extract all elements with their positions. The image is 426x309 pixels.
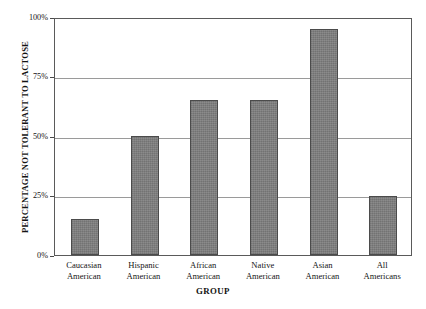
- x-axis-category-label-line: American: [54, 271, 114, 282]
- bar-chart: PERCENTAGE NOT TOLERANT TO LACTOSE 0%25%…: [0, 0, 426, 309]
- x-axis-category-label-line: Americans: [352, 271, 412, 282]
- x-axis-category-label-line: Hispanic: [114, 260, 174, 271]
- bar: [131, 136, 159, 255]
- bar: [250, 100, 278, 255]
- x-axis-category-label-line: Native: [233, 260, 293, 271]
- x-axis-category-label: AsianAmerican: [293, 260, 353, 281]
- y-axis-tick-label: 50%: [2, 133, 48, 141]
- x-axis-category-label: AfricanAmerican: [173, 260, 233, 281]
- gridline: [55, 197, 411, 198]
- y-axis-tick-label: 25%: [2, 192, 48, 200]
- bar: [190, 100, 218, 255]
- x-axis-category-label-line: African: [173, 260, 233, 271]
- x-axis-category-label: AllAmericans: [352, 260, 412, 281]
- x-axis-category-label: CaucasianAmerican: [54, 260, 114, 281]
- x-axis-category-label-line: All: [352, 260, 412, 271]
- y-axis-tick-label: 75%: [2, 73, 48, 81]
- plot-area: [54, 18, 412, 256]
- x-axis-category-label-line: American: [293, 271, 353, 282]
- x-axis-category-label-line: American: [173, 271, 233, 282]
- gridline: [55, 78, 411, 79]
- x-axis-category-label-line: Caucasian: [54, 260, 114, 271]
- bar: [71, 219, 99, 255]
- gridline: [55, 138, 411, 139]
- y-axis-tick-label: 100%: [2, 14, 48, 22]
- bar: [369, 196, 397, 256]
- x-axis-category-label-line: American: [233, 271, 293, 282]
- bar: [310, 29, 338, 255]
- x-axis-title: GROUP: [0, 286, 426, 296]
- x-axis-category-label: NativeAmerican: [233, 260, 293, 281]
- y-axis-tick-label: 0%: [2, 252, 48, 260]
- x-axis-category-label-line: Asian: [293, 260, 353, 271]
- x-axis-category-label: HispanicAmerican: [114, 260, 174, 281]
- x-axis-category-label-line: American: [114, 271, 174, 282]
